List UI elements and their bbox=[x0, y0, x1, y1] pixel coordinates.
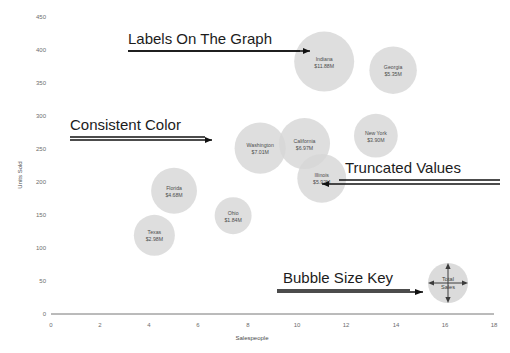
bubble-label-value: $5.35M bbox=[384, 71, 401, 77]
bubble-label-name: Georgia bbox=[384, 64, 403, 70]
annotation-label: Labels On The Graph bbox=[128, 30, 272, 47]
annotation-label: Truncated Values bbox=[345, 159, 461, 176]
y-tick-label: 100 bbox=[36, 245, 47, 251]
bubble-label-value: $1.84M bbox=[224, 217, 241, 223]
x-tick-label: 14 bbox=[393, 322, 400, 328]
bubble-label-value: $4.68M bbox=[165, 192, 182, 198]
y-tick-label: 450 bbox=[36, 14, 47, 20]
x-axis-title: Salespeople bbox=[235, 335, 269, 341]
bubble-chart: 450 400 350 300 250 200 150 100 50 0 Uni… bbox=[0, 0, 510, 353]
y-axis-ticks: 450 400 350 300 250 200 150 100 50 0 bbox=[36, 14, 47, 317]
y-tick-label: 200 bbox=[36, 179, 47, 185]
size-key-label-line1: Total bbox=[442, 276, 454, 282]
bubble-label-value: $3.90M bbox=[367, 137, 384, 143]
annotation-arrowhead bbox=[415, 289, 423, 295]
bubble-label-name: Illinois bbox=[315, 172, 330, 178]
y-tick-label: 50 bbox=[39, 278, 46, 284]
x-tick-label: 0 bbox=[49, 322, 53, 328]
bubble-point[interactable]: Texas$2.98M bbox=[134, 215, 175, 256]
bubble-point[interactable]: New York$3.90M bbox=[354, 114, 398, 158]
y-tick-label: 300 bbox=[36, 113, 47, 119]
bubble-label-name: California bbox=[294, 138, 316, 144]
x-tick-label: 2 bbox=[98, 322, 102, 328]
bubble-label-value: $6.97M bbox=[296, 145, 313, 151]
bubble-label-value: $7.01M bbox=[252, 149, 269, 155]
chart-canvas: 450 400 350 300 250 200 150 100 50 0 Uni… bbox=[0, 0, 510, 353]
bubble-label-name: Texas bbox=[148, 229, 162, 235]
x-tick-label: 12 bbox=[343, 322, 350, 328]
y-tick-label: 350 bbox=[36, 80, 47, 86]
bubble-label-value: $11.88M bbox=[314, 63, 334, 69]
annotation-label: Bubble Size Key bbox=[283, 269, 394, 286]
annotation-bubble-size-key: Bubble Size Key bbox=[277, 269, 423, 295]
bubble-layer: Indiana$11.88MGeorgia$5.35MWashington$7.… bbox=[134, 32, 417, 256]
annotation-label: Consistent Color bbox=[70, 116, 181, 133]
size-key-label-line2: Sales bbox=[441, 284, 455, 290]
bubble-point[interactable]: Florida$4.68M bbox=[151, 168, 197, 214]
bubble-point[interactable]: Washington$7.01M bbox=[235, 123, 286, 174]
annotation-labels-on-the-graph: Labels On The Graph bbox=[128, 30, 310, 54]
bubble-label-name: Washington bbox=[247, 142, 274, 148]
bubble-point[interactable]: Georgia$5.35M bbox=[369, 46, 417, 94]
bubble-label-value: $2.98M bbox=[146, 236, 163, 242]
x-tick-label: 6 bbox=[196, 322, 200, 328]
y-tick-label: 0 bbox=[43, 311, 47, 317]
bubble-point[interactable]: Illinois$5.92M bbox=[297, 154, 346, 203]
x-axis-ticks: 0 2 4 6 8 10 12 14 16 18 bbox=[49, 322, 498, 328]
y-axis-title: Units Sold bbox=[17, 161, 23, 188]
bubble-label-name: Ohio bbox=[228, 210, 239, 216]
y-tick-label: 250 bbox=[36, 146, 47, 152]
x-tick-label: 8 bbox=[246, 322, 250, 328]
y-tick-label: 150 bbox=[36, 212, 47, 218]
y-tick-label: 400 bbox=[36, 47, 47, 53]
annotation-consistent-color: Consistent Color bbox=[70, 116, 212, 143]
bubble-label-name: Indiana bbox=[316, 56, 333, 62]
bubble-label-name: Florida bbox=[166, 185, 182, 191]
annotation-truncated-values: Truncated Values bbox=[322, 159, 500, 187]
bubble-size-key-graphic: Total Sales bbox=[428, 263, 468, 303]
x-tick-label: 4 bbox=[147, 322, 151, 328]
x-tick-label: 10 bbox=[294, 322, 301, 328]
bubble-label-name: New York bbox=[365, 130, 387, 136]
bubble-point[interactable]: Ohio$1.84M bbox=[215, 197, 252, 234]
bubble-point[interactable]: Indiana$11.88M bbox=[294, 32, 354, 92]
x-tick-label: 18 bbox=[491, 322, 498, 328]
annotation-arrowhead bbox=[205, 137, 212, 143]
x-tick-label: 16 bbox=[442, 322, 449, 328]
